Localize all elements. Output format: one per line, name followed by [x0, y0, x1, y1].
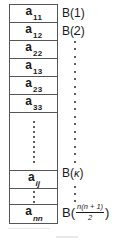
vertical-ellipsis-icon [33, 189, 35, 204]
array-cell-ellipsis-upper [10, 113, 57, 171]
subscript: 23 [33, 85, 43, 94]
array-cell-a13: a13 [10, 59, 57, 77]
array-cell-ann: ann [10, 205, 57, 223]
label-b1: B(1) [62, 7, 85, 19]
array-cell-a22: a22 [10, 41, 57, 59]
array-cell-a11: a11 [10, 5, 57, 23]
scan-artifact [8, 228, 50, 229]
fraction-denominator: 2 [87, 213, 93, 222]
label-connector-dots-lower [74, 186, 76, 202]
array-cell-a12: a12 [10, 23, 57, 41]
matrix-element-a23: a23 [25, 77, 42, 92]
matrix-element-aij: aij [28, 171, 39, 186]
matrix-element-ann: ann [25, 205, 41, 220]
storage-index-labels: B(1) B(2) B(κ) B( n(n + 1) 2 ) [62, 0, 131, 242]
subscript: nn [33, 214, 43, 223]
array-cell-a23: a23 [10, 77, 57, 95]
label-b-last-prefix: B( [62, 206, 75, 219]
array-cell-a33: a33 [10, 95, 57, 113]
label-b-kappa-prefix: B( [62, 166, 74, 180]
fraction: n(n + 1) 2 [76, 203, 104, 221]
label-b-kappa: B(κ) [62, 167, 84, 179]
subscript: 33 [33, 103, 43, 112]
packed-array-column: a11 a12 a22 a13 a23 a33 aij ann [9, 4, 58, 224]
array-cell-aij: aij [10, 171, 57, 189]
subscript: 11 [33, 13, 42, 22]
matrix-element-a33: a33 [25, 95, 42, 110]
subscript: ij [36, 179, 40, 188]
subscript: 13 [33, 67, 43, 76]
matrix-element-a11: a11 [25, 5, 41, 20]
array-cell-ellipsis-lower [10, 189, 57, 205]
label-b-last-suffix: ) [105, 206, 109, 219]
label-b-kappa-suffix: ) [80, 166, 84, 180]
scan-artifact [56, 236, 78, 238]
subscript: 12 [33, 31, 43, 40]
matrix-element-a12: a12 [25, 23, 42, 38]
matrix-element-a13: a13 [25, 59, 42, 74]
label-b-last: B( n(n + 1) 2 ) [62, 203, 109, 221]
fraction-numerator: n(n + 1) [76, 203, 104, 212]
matrix-element-a22: a22 [25, 41, 42, 56]
subscript: 22 [33, 49, 43, 58]
vertical-ellipsis-icon [33, 113, 35, 170]
label-connector-dots-upper [74, 33, 76, 163]
